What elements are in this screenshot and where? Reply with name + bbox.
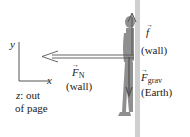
friction-label: f	[146, 26, 149, 38]
z-axis-note-line2: of page	[15, 102, 48, 114]
z-axis-note: z: out	[16, 89, 40, 101]
friction-symbol: f	[146, 26, 149, 38]
gravity-symbol: F	[141, 71, 148, 83]
z-text: : out	[20, 89, 40, 101]
y-axis-label: y	[10, 38, 15, 50]
gravity-source: (Earth)	[141, 86, 172, 98]
normal-force-arrow	[42, 51, 134, 62]
gravity-label: Fgrav	[141, 71, 162, 87]
diagram-canvas	[0, 0, 190, 137]
gravity-subscript: grav	[148, 76, 162, 85]
normal-force-subscript: N	[79, 71, 85, 80]
normal-force-source: (wall)	[66, 80, 92, 92]
x-axis-label: x	[47, 74, 52, 86]
normal-force-symbol: F	[72, 66, 79, 78]
friction-source: (wall)	[141, 44, 167, 56]
coordinate-axes	[19, 42, 49, 81]
